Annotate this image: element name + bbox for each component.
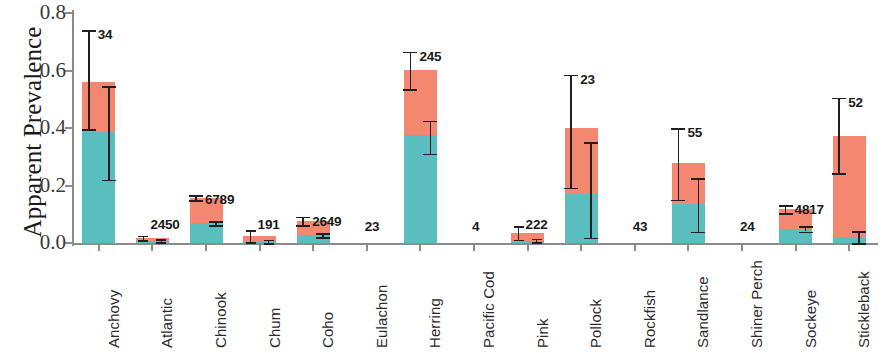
error-bar-cap [246,230,256,232]
error-bar-cap [246,242,256,244]
error-bar-cap [209,225,223,227]
error-bar-line [590,142,592,237]
x-axis-line [72,243,878,245]
error-bar-cap [156,239,166,241]
x-axis-label-sockeye: Sockeye [802,290,819,348]
error-bar-line [678,128,680,200]
sample-size-label: 245 [419,49,441,64]
error-bar-cap [514,240,524,242]
error-bar-cap [403,89,417,91]
y-axis-tick [65,12,72,14]
y-axis-tick-label: 0.0 [22,230,66,255]
error-bar-cap [209,221,223,223]
error-bar-line [430,121,432,154]
error-bar-cap [671,200,685,202]
x-axis-label-pink: Pink [534,318,551,348]
x-axis-tick [580,244,582,251]
x-axis-label-eulachon: Eulachon [373,285,390,348]
x-axis-label-herring: Herring [426,298,443,348]
error-bar-line [108,86,110,179]
error-bar-line [518,226,520,239]
bar-lower-segment [565,194,598,243]
error-bar-cap [102,180,116,182]
sample-size-label: 2450 [150,217,179,232]
error-bar-cap [691,232,705,234]
x-axis-tick [205,244,207,251]
error-bar-line [838,98,840,173]
error-bar-line [410,52,412,89]
error-bar-line [250,230,252,242]
stacked-bar-chart-figure: Apparent Prevalence AnchovyAtlanticChino… [0,0,884,353]
error-bar-cap [189,195,203,197]
y-axis-tick-label: 0.8 [22,0,66,25]
sample-size-label: 222 [526,217,548,232]
error-bar-cap [296,217,310,219]
error-bar-cap [403,52,417,54]
y-axis-tick [65,242,72,244]
error-bar-cap [584,238,598,240]
error-bar-cap [779,213,793,215]
y-axis-tick [65,70,72,72]
sample-size-label: 4817 [795,202,824,217]
x-axis-tick [687,244,689,251]
x-axis-label-chum: Chum [266,308,283,348]
error-bar-cap [564,188,578,190]
error-bar-cap [691,178,705,180]
x-axis-tick [151,244,153,251]
y-axis-tick-label: 0.2 [22,173,66,198]
x-axis-label-sandlance: Sandlance [694,276,711,348]
x-axis-tick [419,244,421,251]
y-axis-tick-label: 0.4 [22,115,66,140]
sample-size-label: 4 [472,219,479,234]
error-bar-cap [156,242,166,244]
y-axis-tick [65,185,72,187]
error-bar-cap [189,200,203,202]
x-axis-tick [259,244,261,251]
error-bar-cap [584,142,598,144]
x-axis-tick [366,244,368,251]
x-axis-label-coho: Coho [319,312,336,348]
error-bar-line [88,30,90,129]
error-bar-cap [532,242,542,244]
error-bar-line [570,75,572,188]
error-bar-cap [852,243,866,245]
x-axis-label-pacific-cod: Pacific Cod [480,271,497,348]
error-bar-cap [423,121,437,123]
error-bar-cap [82,30,96,32]
error-bar-cap [296,225,310,227]
error-bar-cap [532,239,542,241]
error-bar-line [858,231,860,243]
sample-size-label: 2649 [312,214,341,229]
bar-herring [404,70,437,243]
error-bar-cap [138,240,148,242]
x-axis-label-rockfish: Rockfish [641,290,658,348]
error-bar-cap [82,129,96,131]
x-axis-label-anchovy: Anchovy [105,290,122,348]
error-bar-cap [852,231,866,233]
sample-size-label: 23 [580,72,595,87]
sample-size-label: 55 [687,125,702,140]
error-bar-cap [514,226,524,228]
error-bar-cap [564,75,578,77]
error-bar-cap [138,236,148,238]
sample-size-label: 191 [258,217,280,232]
x-axis-tick [473,244,475,251]
error-bar-cap [316,233,330,235]
x-axis-label-shiner-perch: Shiner Perch [748,260,765,348]
error-bar-cap [264,243,274,245]
bar-lower-segment [82,132,115,243]
error-bar-line [698,178,700,231]
y-axis-tick [65,127,72,129]
error-bar-cap [316,237,330,239]
x-axis-label-stickleback: Stickleback [855,271,872,348]
x-axis-label-pollock: Pollock [587,299,604,348]
plot-area [72,13,876,243]
x-axis-tick [98,244,100,251]
x-axis-label-atlantic: Atlantic [158,298,175,348]
error-bar-cap [832,98,846,100]
sample-size-label: 24 [740,219,755,234]
x-axis-tick [634,244,636,251]
bar-lower-segment [672,204,705,243]
sample-size-label: 43 [633,219,648,234]
error-bar-cap [799,232,813,234]
